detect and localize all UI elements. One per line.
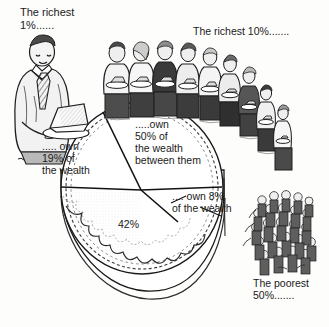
illustration-canvas: The richest 1%...... The richest 10%....… bbox=[0, 0, 329, 327]
label-richest-1-percent: The richest 1%...... bbox=[20, 6, 74, 31]
label-slice-8-percent: .... own 8% of the wealth bbox=[172, 190, 232, 214]
man-cake-slice-shading bbox=[58, 104, 88, 127]
label-richest-10-percent: The richest 10%....... bbox=[193, 25, 289, 37]
label-poorest-50-percent: The poorest 50%....... bbox=[253, 277, 309, 301]
label-slice-19-percent: ..... own 19% of the wealth bbox=[42, 140, 90, 176]
label-slice-50-percent: .....own 50% of the wealth between them bbox=[135, 118, 201, 166]
label-slice-42-percent: 42% bbox=[118, 218, 139, 230]
